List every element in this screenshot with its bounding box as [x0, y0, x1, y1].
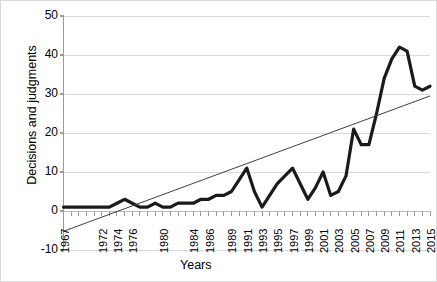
x-tick-label: 1999: [304, 229, 315, 253]
x-tick-label: 1984: [189, 229, 200, 253]
x-tick-label: 2015: [426, 229, 437, 253]
x-tick-label: 1993: [258, 229, 269, 253]
x-tick-label: 1995: [273, 229, 284, 253]
x-tick-label: 1972: [98, 229, 109, 253]
chart-container: Decisions and judgments Years -100102030…: [0, 0, 437, 282]
x-tick-label: 1980: [159, 229, 170, 253]
x-tick-label: 1997: [289, 229, 300, 253]
x-tick-label: 2013: [411, 229, 422, 253]
x-tick-label: 2007: [365, 229, 376, 253]
x-tick-label: 2003: [334, 229, 345, 253]
x-tick-label: 2005: [350, 229, 361, 253]
x-tick-label: 2001: [319, 229, 330, 253]
x-tick-label: 2011: [395, 229, 406, 253]
x-tick-label: 1989: [227, 229, 238, 253]
x-axis-tick-labels: 1967197219741976198019841986198919911993…: [0, 0, 437, 282]
x-tick-label: 1974: [113, 229, 124, 253]
x-tick-label: 1967: [60, 229, 71, 253]
x-tick-label: 1976: [128, 229, 139, 253]
x-tick-label: 1991: [243, 229, 254, 253]
x-tick-label: 2009: [380, 229, 391, 253]
x-tick-label: 1986: [205, 229, 216, 253]
